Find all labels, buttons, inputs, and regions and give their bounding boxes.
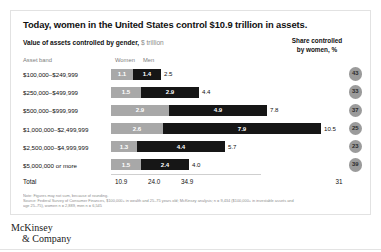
chart-subtitle: Value of assets controlled by gender, $ … (23, 39, 164, 46)
row-total-value: 2.5 (164, 70, 172, 77)
bar-value-women: 1.5 (111, 88, 141, 96)
total-sum-value: 34.9 (181, 178, 193, 185)
chart-card: Today, women in the United States contro… (10, 10, 371, 215)
stacked-bar: 1.52.9 (111, 87, 199, 98)
bar-value-men: 4.4 (137, 143, 225, 151)
chart-rows: $100,000–$249,9991.11.42.543$250,000–$49… (23, 66, 360, 175)
bar-value-women: 1.1 (111, 70, 133, 78)
asset-band-label: $250,000–$499,999 (23, 89, 78, 96)
row-total-value: 5.7 (228, 143, 236, 150)
bar-value-men: 7.9 (163, 125, 321, 133)
column-header-asset-band: Asset band (23, 57, 52, 63)
bar-value-women: 1.5 (111, 161, 141, 169)
bar-value-men: 4.9 (169, 106, 267, 114)
bar-value-men: 1.4 (133, 70, 161, 78)
share-circle-value: 25 (349, 122, 362, 135)
row-total-value: 7.8 (270, 106, 278, 113)
share-circle: 37 (349, 104, 362, 117)
logo-line1: McKinsey (11, 222, 71, 233)
share-column-header: Share controlled by women, % (274, 37, 360, 54)
stacked-bar: 1.34.4 (111, 141, 225, 152)
column-headers: Asset band Women Men (23, 57, 360, 66)
bar-segment-women: 2.6 (111, 123, 163, 134)
footnotes: Note: Figures may not sum, because of ro… (23, 193, 343, 208)
bar-segment-men: 7.9 (163, 123, 321, 134)
share-header-line2: by women, % (274, 46, 360, 55)
subtitle-unit: $ trillion (139, 39, 164, 46)
share-circle-value: 39 (349, 158, 362, 171)
logo-line2: & Company (22, 233, 71, 244)
bar-segment-women: 1.1 (111, 69, 133, 80)
legend-men: Men (143, 57, 154, 63)
total-separator (111, 174, 261, 175)
stacked-bar: 2.67.9 (111, 123, 321, 134)
share-circle: 33 (349, 85, 362, 98)
total-men-value: 24.0 (148, 178, 160, 185)
bar-segment-men: 2.9 (141, 87, 199, 98)
table-row: $2,500,000–$4,999,9991.34.45.723 (23, 139, 360, 157)
asset-band-label: $5,000,000 or more (23, 162, 77, 169)
bar-value-women: 1.3 (111, 143, 137, 151)
page-title: Today, women in the United States contro… (23, 19, 359, 30)
asset-band-label: $2,500,000–$4,999,999 (23, 144, 88, 151)
total-label: Total (23, 178, 36, 185)
bar-segment-men: 1.4 (133, 69, 161, 80)
share-circle-value: 33 (349, 85, 362, 98)
footnote-line-3: age 25–75), women n = 2,889, men n = 6,5… (23, 203, 343, 208)
share-circle-value: 37 (349, 104, 362, 117)
stacked-bar: 1.11.4 (111, 69, 161, 80)
asset-band-label: $100,000–$249,999 (23, 71, 78, 78)
table-row: $5,000,000 or more1.52.44.039 (23, 157, 360, 175)
bar-segment-women: 1.5 (111, 159, 141, 170)
bar-segment-men: 4.9 (169, 105, 267, 116)
row-total-value: 4.4 (202, 88, 210, 95)
share-circle-value: 43 (349, 67, 362, 80)
share-circle: 39 (349, 158, 362, 171)
bar-segment-women: 1.5 (111, 87, 141, 98)
table-row: $250,000–$499,9991.52.94.433 (23, 84, 360, 102)
mckinsey-logo: McKinsey & Company (11, 222, 71, 244)
stacked-bar: 1.52.4 (111, 159, 189, 170)
stacked-bar: 2.94.9 (111, 105, 267, 116)
bar-value-women: 2.6 (111, 125, 163, 133)
share-header-line1: Share controlled (274, 37, 360, 46)
bar-segment-men: 4.4 (137, 141, 225, 152)
table-row: $500,000–$999,9992.94.97.837 (23, 102, 360, 120)
bar-segment-men: 2.4 (141, 159, 189, 170)
row-total-value: 10.5 (324, 125, 336, 132)
subtitle-text: Value of assets controlled by gender, (23, 39, 139, 46)
table-row: $100,000–$249,9991.11.42.543 (23, 66, 360, 84)
legend-women: Women (115, 57, 135, 63)
bar-segment-women: 1.3 (111, 141, 137, 152)
total-row: Total 10.9 24.0 34.9 31 (23, 177, 360, 189)
footer-rule (0, 249, 381, 250)
bar-value-women: 2.9 (111, 106, 169, 114)
share-circle-value: 23 (349, 140, 362, 153)
bar-value-men: 2.4 (141, 161, 189, 169)
bar-segment-women: 2.9 (111, 105, 169, 116)
table-row: $1,000,000–$2,499,9992.67.910.525 (23, 121, 360, 139)
bar-value-men: 2.9 (141, 88, 199, 96)
asset-band-label: $500,000–$999,999 (23, 107, 78, 114)
share-circle: 23 (349, 140, 362, 153)
share-circle: 25 (349, 122, 362, 135)
total-share-value: 31 (326, 178, 352, 185)
row-total-value: 4.0 (192, 161, 200, 168)
total-women-value: 10.9 (115, 178, 127, 185)
asset-band-label: $1,000,000–$2,499,999 (23, 126, 88, 133)
share-circle: 43 (349, 67, 362, 80)
